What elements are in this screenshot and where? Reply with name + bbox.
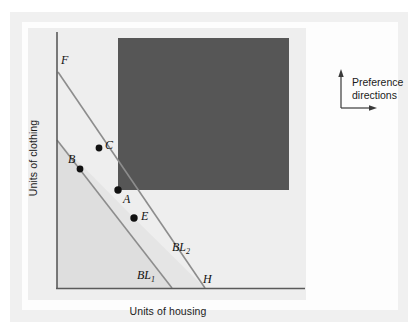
preference-directions-line1: Preference <box>352 76 403 89</box>
data-point-b <box>77 166 84 173</box>
label-point-e: E <box>141 209 148 224</box>
label-point-a: A <box>123 192 130 207</box>
preference-directions-annotation: Preference directions <box>352 76 403 102</box>
label-budget-line-bl1: BL1 <box>137 268 155 284</box>
label-budget-line-bl2: BL2 <box>172 240 190 256</box>
x-axis-label: Units of housing <box>78 305 258 317</box>
preferred-bundles-rectangle <box>118 38 289 190</box>
data-point-a <box>114 186 121 193</box>
label-point-b: B <box>68 152 75 167</box>
label-bl2-subscript: 2 <box>186 247 190 256</box>
preference-directions-line2: directions <box>352 89 403 102</box>
label-point-h: H <box>203 272 212 287</box>
label-point-f: F <box>61 53 68 68</box>
data-point-e <box>130 214 137 221</box>
label-point-c: C <box>105 138 113 153</box>
label-bl1-subscript: 1 <box>151 275 155 284</box>
y-axis-label: Units of clothing <box>27 98 39 218</box>
label-bl2-name: BL <box>172 240 186 254</box>
economics-budget-line-figure: Units of clothing Units of housing Prefe… <box>0 0 418 335</box>
data-point-c <box>96 145 103 152</box>
label-bl1-name: BL <box>137 268 151 282</box>
